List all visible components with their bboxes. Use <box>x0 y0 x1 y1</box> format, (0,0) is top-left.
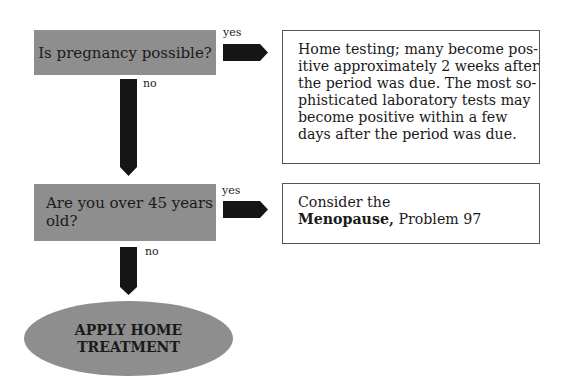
no-label: no <box>145 246 159 258</box>
answer-home-testing: Home testing; many become pos- itive app… <box>282 30 540 164</box>
apply-home-treatment-terminal: APPLY HOME TREATMENT <box>24 301 233 376</box>
answer-line: phisticated laboratory tests may <box>298 92 539 109</box>
answer-line: days after the period was due. <box>298 126 539 143</box>
no-label: no <box>143 78 157 90</box>
terminal-text: TREATMENT <box>77 339 180 356</box>
arrow-down-icon <box>120 247 137 296</box>
question-over-45: Are you over 45 years old? <box>34 184 216 241</box>
question-text: Are you over 45 years <box>46 194 216 212</box>
answer-line: Home testing; many become pos- <box>298 41 539 58</box>
terminal-text: APPLY HOME <box>75 322 182 339</box>
problem-reference-link: Menopause, <box>298 211 394 227</box>
answer-line: Consider the <box>298 194 539 211</box>
problem-number: Problem 97 <box>394 211 481 227</box>
answer-line: itive approximately 2 weeks after <box>298 58 539 75</box>
answer-menopause: Consider the Menopause, Problem 97 <box>282 183 540 244</box>
answer-line: the period was due. The most so- <box>298 75 539 92</box>
question-text: old? <box>46 212 216 230</box>
question-pregnancy-possible: Is pregnancy possible? <box>34 30 216 75</box>
arrow-down-icon <box>120 79 137 177</box>
arrow-right-icon <box>223 44 269 61</box>
yes-label: yes <box>222 185 240 197</box>
answer-line: become positive within a few <box>298 109 539 126</box>
question-text: Is pregnancy possible? <box>38 44 212 62</box>
yes-label: yes <box>223 27 241 39</box>
arrow-right-icon <box>223 201 269 218</box>
